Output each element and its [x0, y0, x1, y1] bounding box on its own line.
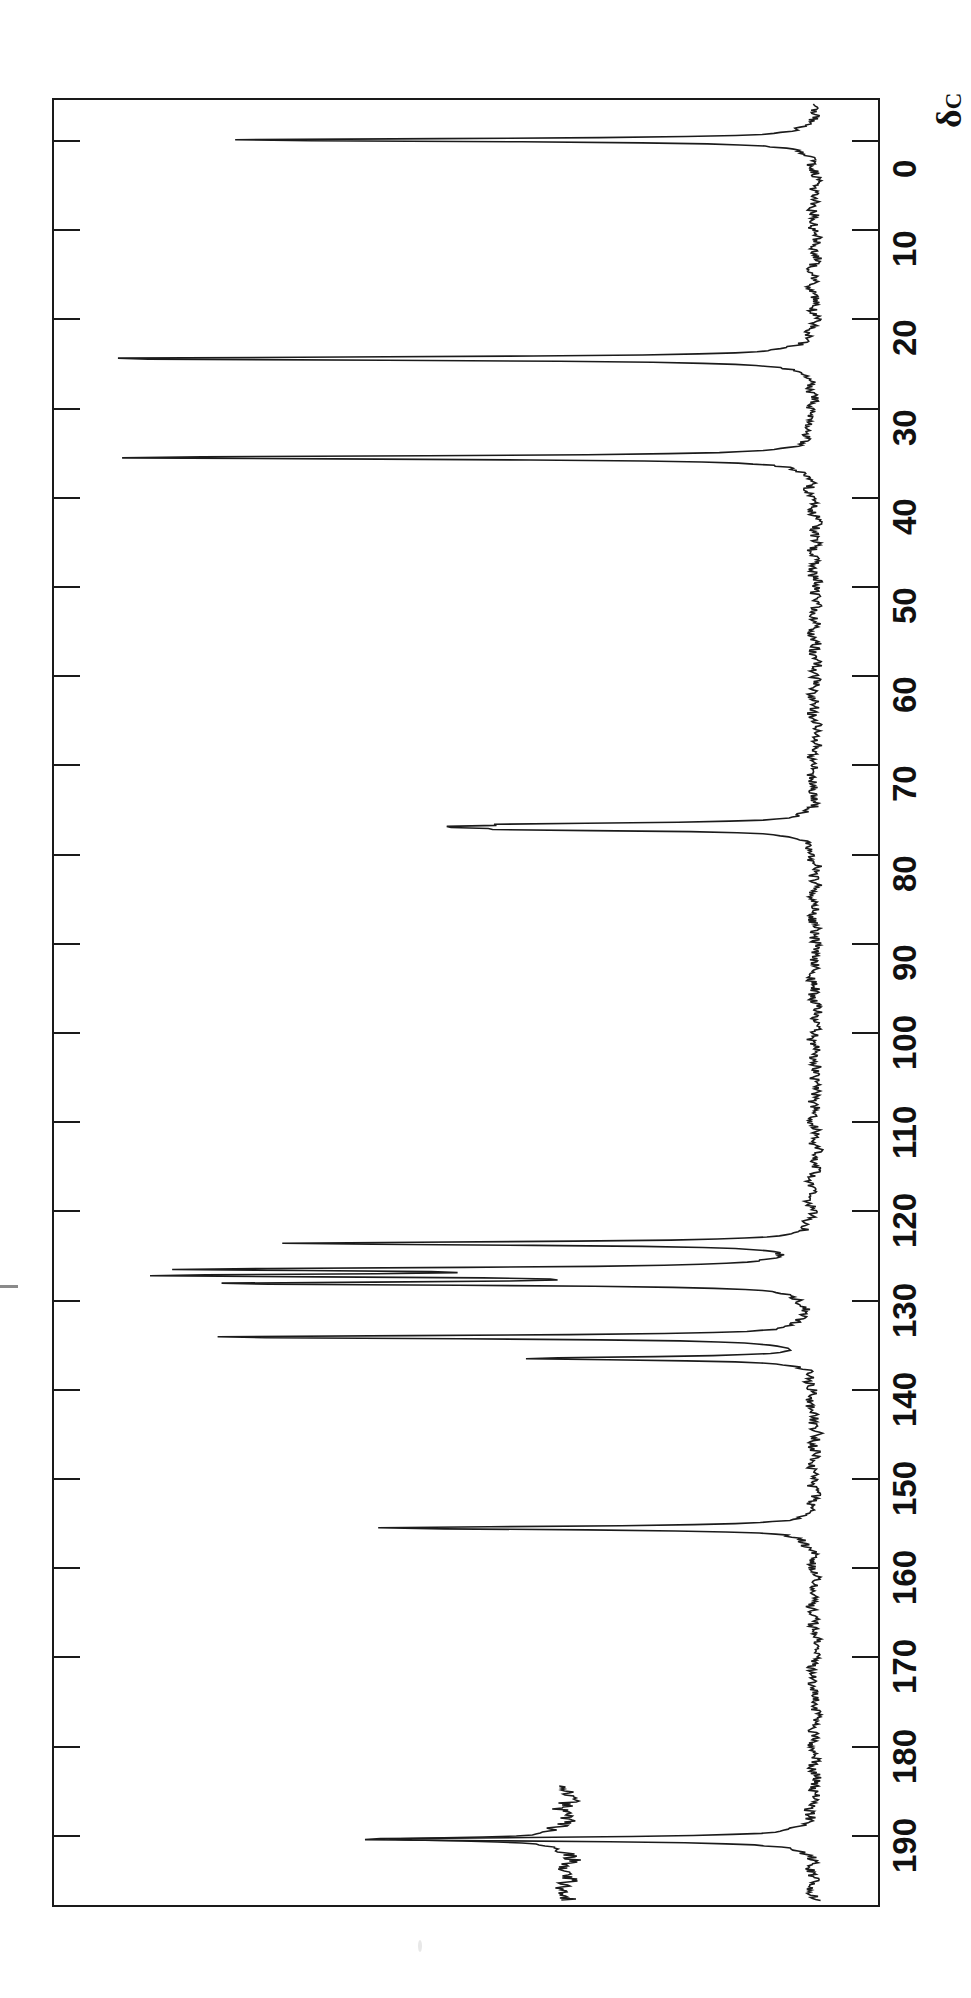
axis-tick-right-40: [852, 497, 878, 499]
axis-tick-right-30: [852, 408, 878, 410]
axis-tick-right-180: [852, 1746, 878, 1748]
axis-tick-label-90: 90: [886, 911, 924, 981]
axis-tick-label-30: 30: [886, 376, 924, 446]
scan-artifact: [0, 1285, 18, 1288]
scan-artifact: [418, 1940, 422, 1952]
axis-tick-label-110: 110: [886, 1089, 924, 1159]
axis-caption: δC: [928, 93, 970, 128]
axis-tick-left-20: [54, 318, 80, 320]
axis-tick-label-70: 70: [886, 732, 924, 802]
axis-tick-label-80: 80: [886, 822, 924, 892]
axis-tick-label-40: 40: [886, 465, 924, 535]
axis-tick-right-190: [852, 1835, 878, 1837]
axis-tick-left-110: [54, 1121, 80, 1123]
axis-tick-label-180: 180: [886, 1714, 924, 1784]
axis-tick-right-10: [852, 229, 878, 231]
axis-tick-left-150: [54, 1478, 80, 1480]
axis-tick-left-80: [54, 854, 80, 856]
axis-tick-label-170: 170: [886, 1624, 924, 1694]
axis-tick-left-170: [54, 1656, 80, 1658]
axis-tick-label-160: 160: [886, 1535, 924, 1605]
axis-tick-left-160: [54, 1567, 80, 1569]
axis-tick-right-80: [852, 854, 878, 856]
axis-tick-label-150: 150: [886, 1446, 924, 1516]
axis-tick-left-120: [54, 1210, 80, 1212]
axis-tick-right-150: [852, 1478, 878, 1480]
axis-tick-right-160: [852, 1567, 878, 1569]
axis-tick-label-100: 100: [886, 1000, 924, 1070]
axis-tick-left-70: [54, 764, 80, 766]
axis-tick-label-60: 60: [886, 643, 924, 713]
axis-tick-right-170: [852, 1656, 878, 1658]
axis-tick-right-100: [852, 1032, 878, 1034]
plot-frame: [52, 98, 880, 1907]
axis-tick-left-10: [54, 229, 80, 231]
axis-tick-label-140: 140: [886, 1357, 924, 1427]
axis-tick-right-140: [852, 1389, 878, 1391]
axis-tick-left-130: [54, 1300, 80, 1302]
axis-caption-subscript: C: [941, 93, 966, 110]
spectrum-page: 0102030405060708090100110120130140150160…: [0, 0, 971, 1998]
axis-tick-right-60: [852, 675, 878, 677]
axis-tick-right-70: [852, 764, 878, 766]
axis-tick-right-50: [852, 586, 878, 588]
axis-tick-left-100: [54, 1032, 80, 1034]
axis-tick-label-190: 190: [886, 1803, 924, 1873]
axis-tick-label-130: 130: [886, 1268, 924, 1338]
axis-tick-right-90: [852, 943, 878, 945]
axis-tick-label-50: 50: [886, 554, 924, 624]
axis-tick-left-0: [54, 140, 80, 142]
axis-tick-label-20: 20: [886, 286, 924, 356]
axis-tick-right-130: [852, 1300, 878, 1302]
axis-tick-left-90: [54, 943, 80, 945]
axis-tick-left-60: [54, 675, 80, 677]
axis-tick-right-20: [852, 318, 878, 320]
axis-tick-right-110: [852, 1121, 878, 1123]
axis-tick-left-180: [54, 1746, 80, 1748]
axis-tick-label-0: 0: [886, 108, 924, 178]
axis-tick-label-10: 10: [886, 197, 924, 267]
axis-tick-left-40: [54, 497, 80, 499]
axis-tick-right-0: [852, 140, 878, 142]
axis-tick-left-140: [54, 1389, 80, 1391]
axis-tick-right-120: [852, 1210, 878, 1212]
axis-tick-left-50: [54, 586, 80, 588]
axis-tick-left-30: [54, 408, 80, 410]
axis-tick-label-120: 120: [886, 1178, 924, 1248]
axis-caption-delta: δ: [929, 109, 969, 128]
axis-tick-left-190: [54, 1835, 80, 1837]
